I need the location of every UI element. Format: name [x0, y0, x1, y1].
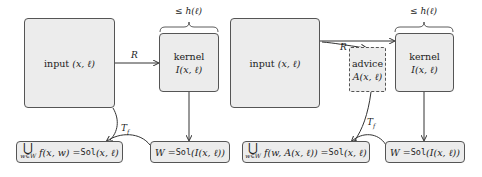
input-box-left: input (x, ℓ)	[24, 18, 115, 108]
sol-arg: (x, ℓ)	[344, 146, 367, 159]
kernel-sol-lhs: W =	[155, 146, 176, 159]
input-to-solution-left	[110, 108, 117, 140]
size-bound-right: ≤ h(ℓ)	[410, 6, 437, 16]
size-brace-left	[160, 22, 218, 32]
union-symbol: ⋃	[23, 144, 33, 152]
kernel-sol-fn: Sol	[411, 146, 426, 159]
input-label: input	[250, 58, 275, 69]
union-subscript: w∈W	[245, 152, 261, 160]
kernel-expr: I(x, ℓ)	[411, 63, 438, 76]
kernel-box-left: kernel I(x, ℓ)	[159, 33, 219, 92]
kernel-sol-arg: (I(x, ℓ))	[191, 146, 225, 159]
kernel-box-right: kernel I(x, ℓ)	[395, 33, 454, 92]
size-bound-left: ≤ h(ℓ)	[175, 6, 202, 16]
size-brace-right	[395, 22, 453, 32]
reduction-label-left: R	[131, 50, 138, 60]
advice-box: advice A(x, ℓ)	[349, 47, 386, 92]
kernel-sol-arg: (I(x, ℓ))	[426, 146, 460, 159]
transform-label-left: Tf	[121, 123, 129, 135]
transform-label-right: Tf	[367, 117, 375, 129]
kernel-sol-fn: Sol	[176, 146, 191, 159]
sol-arg: (x, ℓ)	[96, 146, 119, 159]
advice-label: advice	[352, 57, 383, 70]
input-args: (x, ℓ)	[278, 58, 301, 69]
input-label: input	[44, 58, 69, 69]
solution-union-right: ⋃w∈W f(w, A(x, ℓ)) = Sol(x, ℓ)	[242, 141, 370, 163]
advice-expr: A(x, ℓ)	[353, 70, 383, 83]
sol-fn: Sol	[329, 146, 344, 159]
advice-to-solution	[355, 92, 371, 140]
union-subscript: w∈W	[20, 152, 36, 160]
sol-fn: Sol	[81, 146, 96, 159]
solution-expr: f(x, w) =	[39, 146, 80, 159]
reduction-label-right: R	[340, 42, 347, 52]
kernel-label: kernel	[174, 50, 205, 63]
kernel-label: kernel	[409, 50, 440, 63]
union-symbol: ⋃	[248, 144, 258, 152]
kernel-sol-lhs: W =	[390, 146, 411, 159]
kernel-solution-right: W = Sol(I(x, ℓ))	[385, 141, 465, 163]
solution-expr: f(w, A(x, ℓ)) =	[264, 146, 329, 159]
kernel-expr: I(x, ℓ)	[176, 63, 203, 76]
input-args: (x, ℓ)	[72, 58, 95, 69]
kernel-solution-left: W = Sol(I(x, ℓ))	[150, 141, 230, 163]
input-box-right: input (x, ℓ)	[230, 18, 320, 108]
solution-union-left: ⋃w∈W f(x, w) = Sol(x, ℓ)	[16, 141, 123, 163]
